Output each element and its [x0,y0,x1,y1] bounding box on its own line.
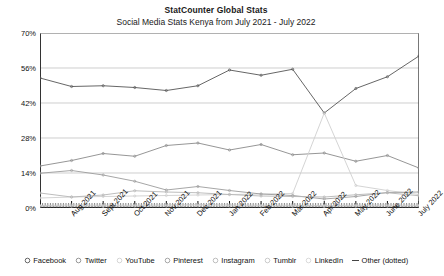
circle-outline-icon [116,257,123,264]
y-axis-tick-label: 14% [21,169,36,178]
x-axis-tick-label: July 2022 [416,189,444,219]
legend-item-linkedin[interactable]: LinkedIn [305,256,343,265]
series-line-facebook [40,56,419,113]
chart-legend: FacebookTwitterYouTubePinterestInstagram… [0,253,432,267]
circle-outline-icon [212,257,219,264]
y-axis-tick-label: 0% [25,204,36,213]
y-axis-tick-label: 56% [21,64,36,73]
legend-item-label: Instagram [221,256,254,265]
chart-subtitle: Social Media Stats Kenya from July 2021 … [0,17,432,27]
plot-area [40,33,419,208]
circle-outline-icon [305,257,312,264]
y-axis-labels: 0%14%28%42%56%70% [0,33,40,208]
legend-item-youtube[interactable]: YouTube [116,256,155,265]
y-axis-tick-label: 28% [21,134,36,143]
legend-item-twitter[interactable]: Twitter [75,256,107,265]
circle-outline-icon [24,257,31,264]
legend-item-facebook[interactable]: Facebook [24,256,66,265]
y-axis-tick-label: 70% [21,29,36,38]
legend-item-other-dotted[interactable]: Other (dotted) [352,256,408,265]
circle-outline-icon [264,257,271,264]
circle-outline-icon [164,257,171,264]
series-line-twitter [40,143,419,168]
legend-item-label: Twitter [85,256,107,265]
legend-item-label: YouTube [125,256,154,265]
circle-outline-icon [75,257,82,264]
y-axis-tick-label: 42% [21,99,36,108]
legend-item-label: Facebook [33,256,66,265]
series-line-youtube [40,113,419,198]
line-chart-svg [40,33,419,208]
chart-title: StatCounter Global Stats [0,5,432,15]
dash-line-icon [352,257,359,264]
legend-item-label: Pinterest [173,256,203,265]
legend-item-label: LinkedIn [315,256,343,265]
x-axis-labels: Aug 2021Sept 2021Oct 2021Nov 2021Dec 202… [40,209,419,255]
legend-item-label: Tumblr [273,256,296,265]
legend-item-tumblr[interactable]: Tumblr [264,256,297,265]
legend-item-pinterest[interactable]: Pinterest [164,256,203,265]
legend-item-instagram[interactable]: Instagram [212,256,255,265]
legend-item-label: Other (dotted) [362,256,409,265]
